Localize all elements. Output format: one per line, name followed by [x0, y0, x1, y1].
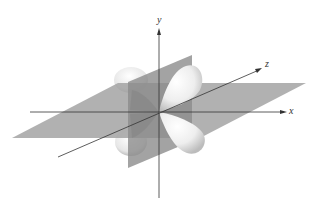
orbital-diagram: [0, 0, 321, 213]
x-axis-label: x: [289, 106, 293, 116]
z-axis-arrow-icon: [255, 68, 262, 73]
z-axis-label: z: [265, 59, 269, 69]
y-axis-label: y: [157, 15, 161, 25]
x-axis-arrow-icon: [280, 110, 287, 114]
y-axis-arrow-icon: [157, 28, 161, 35]
